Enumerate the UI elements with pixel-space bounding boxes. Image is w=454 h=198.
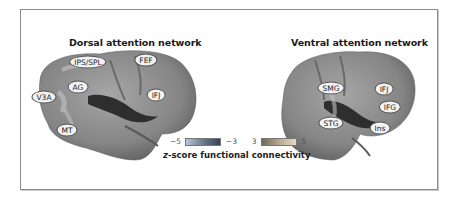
dorsal-network-title: Dorsal attention network — [69, 37, 201, 48]
region-label-mt: MT — [56, 124, 77, 137]
region-label-ag: AG — [68, 81, 89, 94]
positive-colorbar — [261, 138, 297, 146]
ventral-network-title: Ventral attention network — [291, 37, 428, 48]
negative-colorbar — [185, 138, 221, 146]
colorbar-caption: z-score functional connectivity — [163, 150, 310, 160]
neg-min-tick: −5 — [170, 137, 181, 146]
region-label-ifj: IFJ — [375, 83, 394, 96]
colorbar-legend: −5 −3 3 5 — [170, 137, 306, 146]
region-label-v3a: V3A — [31, 91, 56, 104]
region-label-ifj: IFJ — [147, 89, 166, 102]
region-label-ins: Ins — [370, 122, 391, 135]
region-label-stg: STG — [318, 117, 343, 130]
neg-max-tick: −3 — [226, 137, 237, 146]
caption-text: -score functional connectivity — [168, 150, 311, 160]
pos-min-tick: 3 — [252, 137, 257, 146]
region-label-smg: SMG — [317, 82, 344, 95]
brain-surfaces — [0, 0, 454, 198]
pos-max-tick: 5 — [301, 137, 306, 146]
